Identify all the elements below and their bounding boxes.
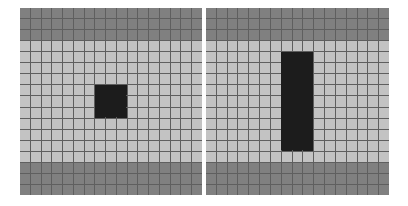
grid-cell — [171, 74, 181, 84]
grid-cell — [138, 52, 148, 62]
band-cell — [238, 30, 248, 40]
band-cell — [31, 19, 41, 29]
band-cell — [314, 30, 324, 40]
grid-cell — [160, 85, 170, 95]
grid-cell — [228, 41, 238, 51]
grid-cell — [303, 152, 313, 162]
grid-cell — [74, 41, 84, 51]
band-cell — [206, 19, 216, 29]
grid-cell — [228, 63, 238, 73]
band-cell — [192, 185, 202, 195]
band-cell — [160, 174, 170, 184]
grid-cell — [117, 130, 127, 140]
band-cell — [358, 19, 368, 29]
grid-cell — [138, 152, 148, 162]
grid-cell — [379, 152, 389, 162]
grid-cell — [31, 141, 41, 151]
grid-cell — [325, 119, 335, 129]
grid-cell — [106, 141, 116, 151]
grid-cell — [31, 108, 41, 118]
band-cell — [52, 163, 62, 173]
grid-cell — [192, 85, 202, 95]
grid-cell — [336, 52, 346, 62]
grid-cell — [271, 74, 281, 84]
grid-cell — [325, 141, 335, 151]
band-cell — [303, 8, 313, 18]
grid-cell — [160, 141, 170, 151]
grid-cell — [181, 74, 191, 84]
band-cell — [303, 163, 313, 173]
grid-cell — [325, 130, 335, 140]
grid-cell — [249, 96, 259, 106]
grid-cell — [217, 130, 227, 140]
band-cell — [160, 185, 170, 195]
grid-cell — [358, 52, 368, 62]
grid-cell — [192, 130, 202, 140]
grid-cell — [63, 85, 73, 95]
grid-cell — [347, 119, 357, 129]
grid-cell — [228, 130, 238, 140]
grid-cell — [42, 119, 52, 129]
grid-cell — [117, 119, 127, 129]
grid-cell — [379, 74, 389, 84]
band-cell — [336, 185, 346, 195]
grid-cell — [293, 152, 303, 162]
grid-cell — [31, 85, 41, 95]
grid-cell — [314, 141, 324, 151]
grid-cell — [249, 74, 259, 84]
grid-cell — [260, 85, 270, 95]
grid-cell — [249, 85, 259, 95]
band-cell — [217, 8, 227, 18]
band-cell — [368, 174, 378, 184]
band-cell — [314, 174, 324, 184]
band-cell — [293, 8, 303, 18]
band-cell — [217, 163, 227, 173]
grid-cell — [52, 85, 62, 95]
grid-cell — [379, 119, 389, 129]
grid-cell — [336, 63, 346, 73]
grid-cell — [228, 96, 238, 106]
grid-cell — [20, 141, 30, 151]
grid-cell — [52, 152, 62, 162]
grid-cell — [368, 74, 378, 84]
band-cell — [325, 174, 335, 184]
band-cell — [282, 174, 292, 184]
band-cell — [138, 163, 148, 173]
grid-cell — [128, 96, 138, 106]
grid-cell — [149, 119, 159, 129]
band-cell — [42, 174, 52, 184]
grid-cell — [31, 119, 41, 129]
grid-cell — [271, 141, 281, 151]
grid-cell — [368, 96, 378, 106]
band-cell — [206, 174, 216, 184]
grid-cell — [206, 41, 216, 51]
band-cell — [171, 185, 181, 195]
grid-cell — [260, 63, 270, 73]
grid-cell — [228, 119, 238, 129]
grid-cell — [138, 74, 148, 84]
band-cell — [171, 30, 181, 40]
grid-cell — [192, 63, 202, 73]
black-square — [95, 85, 126, 117]
grid-cell — [314, 52, 324, 62]
band-cell — [217, 185, 227, 195]
grid-cell — [271, 130, 281, 140]
band-cell — [358, 163, 368, 173]
grid-cell — [95, 119, 105, 129]
band-cell — [128, 8, 138, 18]
grid-cell — [325, 52, 335, 62]
grid-cell — [358, 108, 368, 118]
grid-cell — [368, 63, 378, 73]
band-cell — [271, 30, 281, 40]
band-cell — [52, 30, 62, 40]
grid-cell — [368, 130, 378, 140]
grid-cell — [128, 108, 138, 118]
grid-cell — [52, 108, 62, 118]
grid-cell — [31, 41, 41, 51]
grid-cell — [238, 119, 248, 129]
band-cell — [171, 19, 181, 29]
band-cell — [206, 30, 216, 40]
band-cell — [192, 30, 202, 40]
band-cell — [368, 30, 378, 40]
band-cell — [117, 30, 127, 40]
